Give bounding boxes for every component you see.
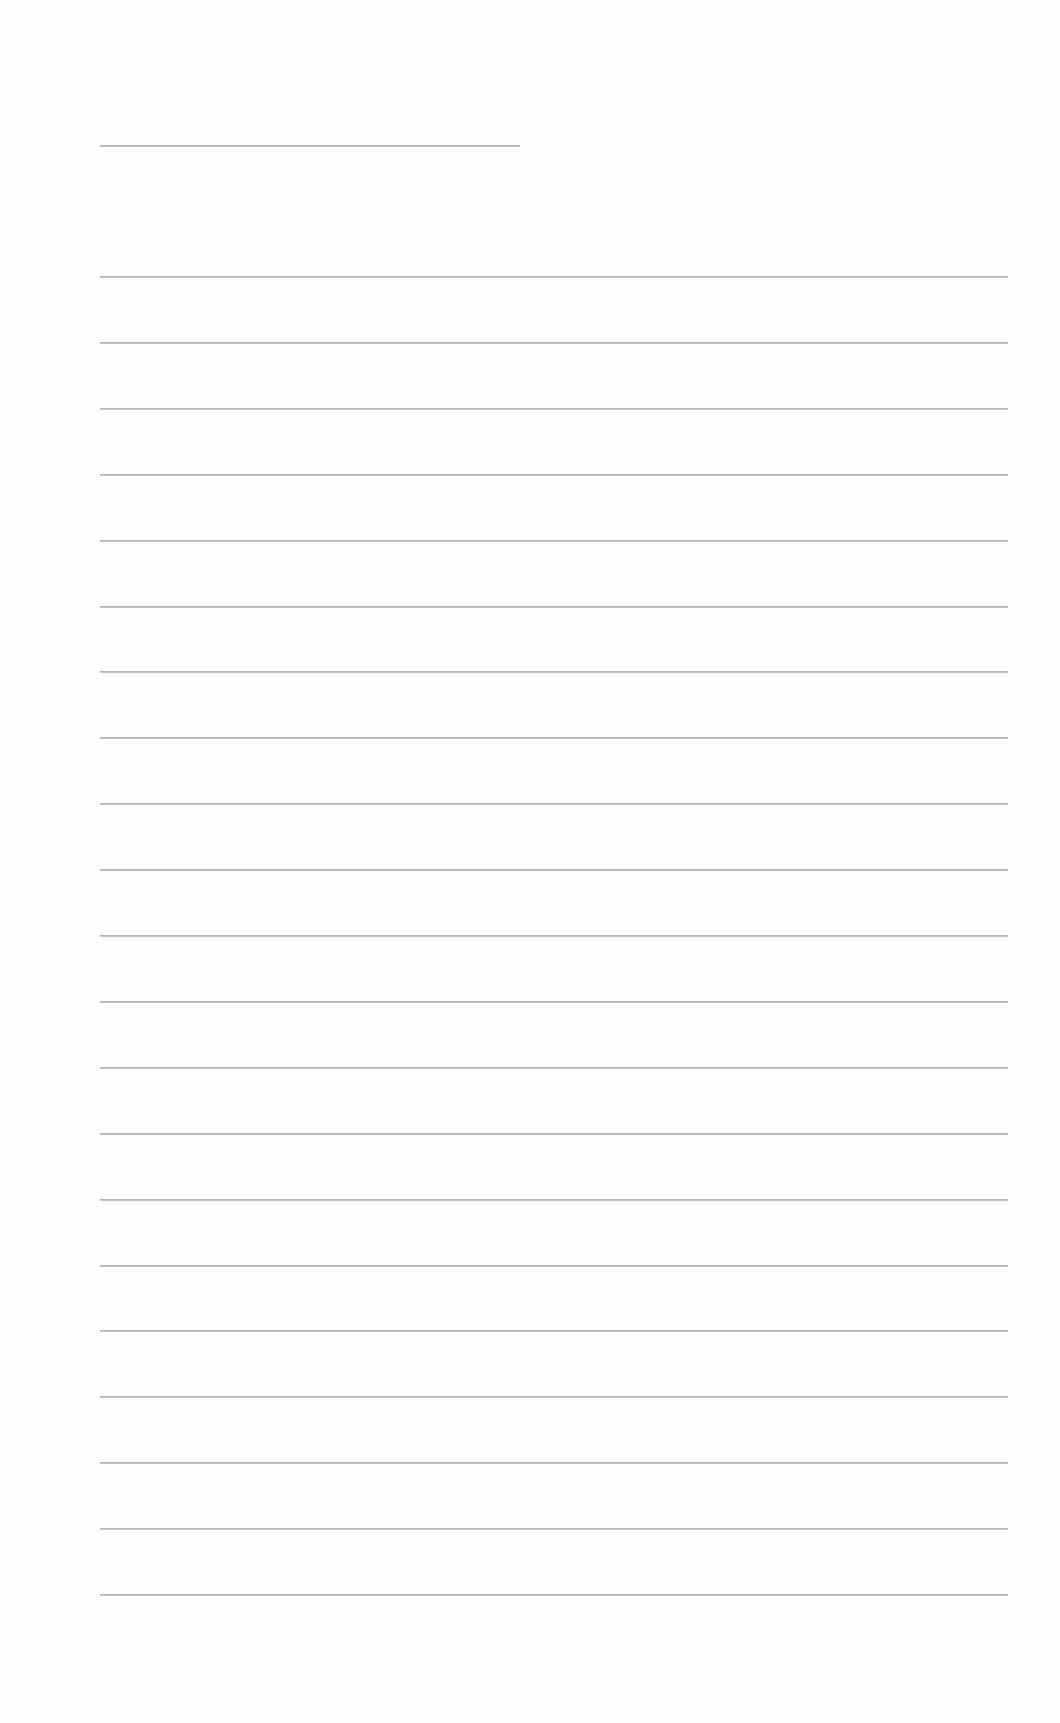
- writing-line: [100, 1133, 1008, 1135]
- writing-line: [100, 671, 1008, 673]
- writing-line: [100, 1330, 1008, 1332]
- writing-line: [100, 1265, 1008, 1267]
- writing-line: [100, 1462, 1008, 1464]
- writing-line: [100, 1001, 1008, 1003]
- writing-line: [100, 803, 1008, 805]
- writing-line: [100, 606, 1008, 608]
- writing-line: [100, 408, 1008, 410]
- writing-line: [100, 869, 1008, 871]
- writing-line: [100, 1396, 1008, 1398]
- writing-line: [100, 1528, 1008, 1530]
- writing-line: [100, 276, 1008, 278]
- title-line: [100, 145, 520, 147]
- writing-line: [100, 1594, 1008, 1596]
- writing-line: [100, 474, 1008, 476]
- writing-line: [100, 342, 1008, 344]
- writing-line: [100, 1067, 1008, 1069]
- writing-line: [100, 1199, 1008, 1201]
- lined-paper-page: [0, 0, 1060, 1723]
- writing-line: [100, 540, 1008, 542]
- writing-line: [100, 737, 1008, 739]
- writing-line: [100, 935, 1008, 937]
